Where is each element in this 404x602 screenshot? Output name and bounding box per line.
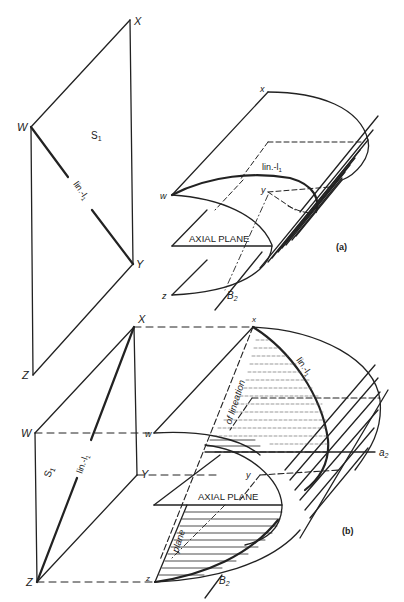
fold-surface-b xyxy=(154,327,388,598)
plane-of-lineation-label-lower: plane xyxy=(169,528,187,554)
fold-surface-a xyxy=(172,92,378,310)
vertex-z-b: z xyxy=(145,574,150,583)
caption-b: (b) xyxy=(342,526,354,536)
vertex-w-b: w xyxy=(145,429,152,439)
vertex-w-a: w xyxy=(160,191,167,201)
b2-label-b: B2 xyxy=(219,575,230,587)
s1-label-b: S1 xyxy=(42,465,57,479)
lineation-label-a: lin.-l1 xyxy=(71,179,92,202)
vertex-z-a: z xyxy=(161,291,167,301)
axial-plane-label-b: AXIAL PLANE xyxy=(198,491,258,502)
vertex-W-a: W xyxy=(17,121,29,133)
vertex-Z-a: Z xyxy=(21,369,30,381)
vertex-x-b: x xyxy=(251,315,257,324)
vertex-Y-b: Y xyxy=(141,468,149,480)
vertex-y-a: y xyxy=(260,185,266,195)
vertex-y-b: y xyxy=(245,470,251,480)
vertex-X-a: X xyxy=(133,15,142,27)
vertex-x-a: x xyxy=(259,84,265,94)
vertex-X-b: X xyxy=(137,313,146,325)
lineation-label-b: lin.-l1 xyxy=(74,452,91,475)
vertex-Z-b: Z xyxy=(25,576,34,588)
s1-label-a: S1 xyxy=(91,130,102,142)
caption-a: (a) xyxy=(336,242,347,252)
vertex-W-b: W xyxy=(21,427,33,439)
lineation-label-a-fold: lin.-l1 xyxy=(262,162,283,173)
fold-diagram: X W Y Z S1 lin.-l1 x w y z lin.-l1 AXIAL… xyxy=(0,0,404,602)
plane-of-lineation-label-upper: of lineation xyxy=(222,379,247,426)
hatching-b xyxy=(159,440,282,575)
axial-plane-label-a: AXIAL PLANE xyxy=(189,233,249,244)
b2-label-a: B2 xyxy=(227,290,238,302)
vertex-Y-a: Y xyxy=(136,258,144,270)
a2-label-b: a2 xyxy=(379,447,389,459)
